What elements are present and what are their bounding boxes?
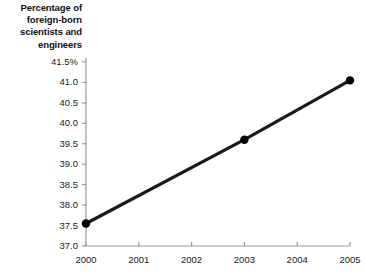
data-point-marker: [82, 219, 90, 227]
line-chart: Percentage of foreign-born scientists an…: [0, 0, 365, 277]
plot-area: [0, 0, 365, 277]
data-point-marker: [240, 135, 248, 143]
data-series: [86, 80, 350, 223]
series-line: [86, 80, 350, 223]
data-point-marker: [346, 76, 354, 84]
